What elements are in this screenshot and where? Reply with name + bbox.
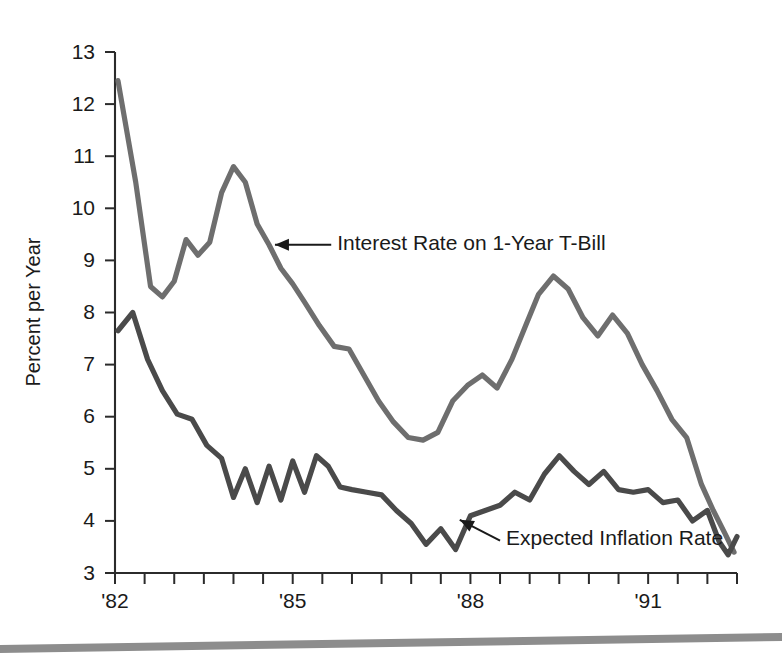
y-axis-tick-label: 12 <box>72 92 95 115</box>
y-axis-title: Percent per Year <box>22 237 44 386</box>
x-axis-tick-label: '85 <box>279 589 306 612</box>
series-line-interest-rate-on-1-year-t-bill <box>118 81 734 552</box>
y-axis-tick-label: 4 <box>83 508 95 531</box>
series-group <box>118 81 737 555</box>
y-axis-ticks: 345678910111213 <box>72 40 115 584</box>
y-axis-tick-label: 8 <box>83 300 95 323</box>
y-axis-tick-label: 9 <box>83 248 95 271</box>
y-axis-tick-label: 6 <box>83 404 95 427</box>
y-axis-tick-label: 10 <box>72 196 95 219</box>
annotation-label: Expected Inflation Rate <box>506 526 723 549</box>
x-axis-tick-label: '91 <box>634 589 661 612</box>
y-axis-tick-label: 11 <box>73 144 95 167</box>
annotation-interest-rate-callout: Interest Rate on 1-Year T-Bill <box>275 231 606 254</box>
annotation-arrow-head <box>275 239 289 251</box>
page-divider-rule <box>0 633 782 653</box>
y-axis-tick-label: 13 <box>72 40 95 63</box>
annotation-label: Interest Rate on 1-Year T-Bill <box>337 231 605 254</box>
y-axis-tick-label: 3 <box>83 561 95 584</box>
series-line-expected-inflation-rate <box>118 313 737 555</box>
line-chart: Percent per Year 345678910111213 '82'85'… <box>0 0 782 664</box>
y-axis-tick-label: 7 <box>83 352 95 375</box>
x-axis-ticks: '82'85'88'91 <box>101 573 737 612</box>
y-axis-title-text: Percent per Year <box>22 237 44 386</box>
y-axis-tick-label: 5 <box>83 456 95 479</box>
x-axis-tick-label: '88 <box>457 589 484 612</box>
x-axis-tick-label: '82 <box>101 589 128 612</box>
annotation-expected-inflation-callout: Expected Inflation Rate <box>460 520 723 549</box>
figure-container: Percent per Year 345678910111213 '82'85'… <box>0 0 782 664</box>
